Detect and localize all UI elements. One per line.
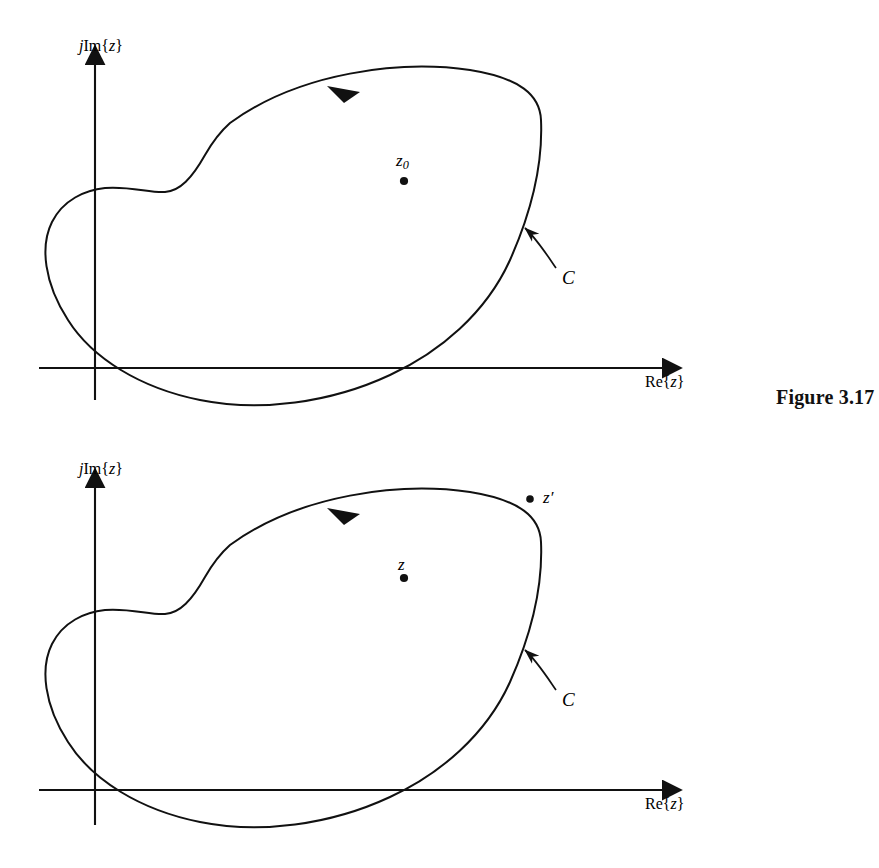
real-axis-label-re: Re{ (645, 373, 670, 390)
imaginary-axis-label: jIm{z} (79, 461, 123, 477)
contour-label: C (562, 268, 575, 287)
boundary-point-symbol: z (543, 488, 550, 507)
interior-point-symbol: z (396, 151, 403, 170)
interior-point-symbol: z (398, 555, 405, 574)
interior-point-label: z0 (396, 152, 409, 172)
contour-label: C (562, 690, 575, 709)
contour-callout-leader (525, 650, 556, 690)
contour-callout-leader (525, 228, 556, 268)
contour-direction-arrowhead (327, 508, 360, 525)
figure-3-17-graphic (0, 0, 879, 430)
contour-curve (45, 67, 541, 405)
imaginary-axis-label-brace: } (115, 37, 123, 54)
figure-3-17: jIm{z} Re{z} z0 C Figure 3.17 (0, 0, 879, 430)
interior-point-subscript: 0 (403, 158, 409, 172)
imaginary-axis-label-im: Im{ (83, 37, 108, 54)
imaginary-axis-label-brace: } (115, 460, 123, 477)
boundary-point-marker (526, 495, 534, 503)
interior-point-marker (400, 574, 408, 582)
contour-direction-arrowhead (327, 86, 360, 103)
contour-curve (45, 489, 541, 827)
interior-point-marker (400, 177, 408, 185)
imaginary-axis-label-im: Im{ (83, 460, 108, 477)
figure-caption: Figure 3.17 (776, 386, 875, 409)
real-axis-label-brace: } (677, 373, 685, 390)
real-axis-label-re: Re{ (645, 795, 670, 812)
real-axis-label-brace: } (677, 795, 685, 812)
figure-3-18-graphic (0, 425, 879, 868)
real-axis-label: Re{z} (645, 374, 684, 390)
real-axis-label: Re{z} (645, 796, 684, 812)
figure-page: jIm{z} Re{z} z0 C Figure 3.17 (0, 0, 879, 868)
imaginary-axis-label: jIm{z} (79, 38, 123, 54)
interior-point-label: z (398, 556, 405, 573)
boundary-point-prime: ′ (550, 488, 554, 507)
figure-3-18: jIm{z} Re{z} z z′ C Figure 3.18 (0, 425, 879, 868)
boundary-point-label: z′ (543, 489, 553, 506)
